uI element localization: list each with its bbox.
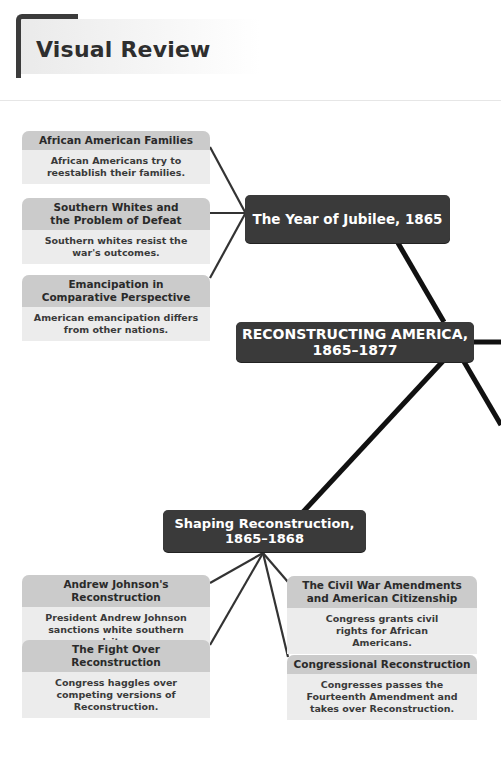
- topic-heading: Congressional Reconstruction: [287, 655, 477, 674]
- topic-card-southern-whites: Southern Whites and the Problem of Defea…: [22, 198, 210, 264]
- topic-heading: African American Families: [22, 131, 210, 150]
- central-node-reconstructing-america: RECONSTRUCTING AMERICA, 1865–1877: [236, 322, 474, 362]
- topic-heading: Andrew Johnson's Reconstruction: [22, 575, 210, 607]
- branch-label: The Year of Jubilee, 1865: [253, 211, 443, 227]
- topic-card-emancipation-comparative: Emancipation in Comparative Perspective …: [22, 275, 210, 341]
- topic-heading: The Fight Over Reconstruction: [22, 640, 210, 672]
- topic-heading: Southern Whites and the Problem of Defea…: [22, 198, 210, 230]
- topic-summary: African Americans try to reestablish the…: [22, 150, 210, 184]
- topic-summary: Congress haggles over competing versions…: [22, 672, 210, 718]
- branch-label-line1: Shaping Reconstruction,: [174, 516, 354, 531]
- topic-card-civil-war-amendments: The Civil War Amendments and American Ci…: [287, 576, 477, 654]
- central-label-line2: 1865–1877: [313, 342, 398, 358]
- branch-node-year-of-jubilee: The Year of Jubilee, 1865: [245, 195, 450, 243]
- topic-heading: Emancipation in Comparative Perspective: [22, 275, 210, 307]
- branch-label-line2: 1865–1868: [225, 531, 304, 546]
- branch-node-shaping-reconstruction: Shaping Reconstruction, 1865–1868: [163, 510, 366, 552]
- central-label-line1: RECONSTRUCTING AMERICA,: [242, 326, 468, 342]
- topic-card-fight-over-reconstruction: The Fight Over Reconstruction Congress h…: [22, 640, 210, 718]
- topic-card-congressional-reconstruction: Congressional Reconstruction Congresses …: [287, 655, 477, 720]
- topic-summary: Congresses passes the Fourteenth Amendme…: [287, 674, 477, 720]
- topic-heading: The Civil War Amendments and American Ci…: [287, 576, 477, 608]
- topic-summary: Southern whites resist the war's outcome…: [22, 230, 210, 264]
- topic-summary: American emancipation differs from other…: [22, 307, 210, 341]
- topic-summary: Congress grants civil rights for African…: [287, 608, 477, 654]
- topic-card-african-american-families: African American Families African Americ…: [22, 131, 210, 184]
